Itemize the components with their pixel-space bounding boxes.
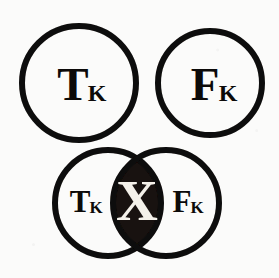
venn-figure-canvas: T K F K T K F K X: [0, 0, 279, 278]
top-left-label-main: T: [57, 58, 88, 110]
venn-right-label-subscript: K: [190, 198, 204, 217]
venn-right-label-main: F: [173, 184, 192, 219]
top-left-label-subscript: K: [88, 80, 107, 106]
venn-left-label-main: T: [70, 184, 91, 219]
venn-left-label-subscript: K: [89, 198, 103, 217]
venn-figure-svg: T K F K T K F K X: [0, 0, 279, 278]
top-right-label-main: F: [191, 58, 220, 110]
venn-intersection-glyph: X: [116, 168, 158, 233]
top-right-label-subscript: K: [219, 80, 238, 106]
